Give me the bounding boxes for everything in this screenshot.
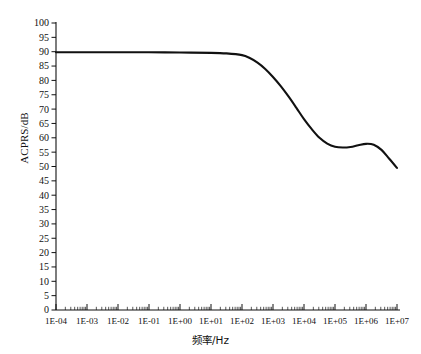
data-series-group bbox=[56, 52, 397, 168]
y-tick-label: 70 bbox=[39, 104, 49, 115]
x-tick-label: 1E+03 bbox=[261, 316, 286, 326]
y-tick-label: 60 bbox=[39, 132, 49, 143]
y-axis-title-wrap: ACPRS/dB bbox=[14, 68, 34, 208]
x-tick-label: 1E+02 bbox=[230, 316, 254, 326]
y-tick-label: 35 bbox=[39, 204, 49, 215]
y-tick-label: 5 bbox=[44, 290, 49, 301]
x-tick-label: 1E+04 bbox=[292, 316, 317, 326]
y-tick-label: 45 bbox=[39, 175, 49, 186]
y-tick-label: 20 bbox=[39, 247, 49, 258]
x-axis-title: 频率/Hz bbox=[0, 332, 421, 347]
y-tick-label: 40 bbox=[39, 190, 49, 201]
y-tick-label: 80 bbox=[39, 75, 49, 86]
x-tick-label: 1E-02 bbox=[107, 316, 129, 326]
x-tick-label: 1E+00 bbox=[168, 316, 193, 326]
x-tick-label: 1E+06 bbox=[354, 316, 379, 326]
x-tick-label: 1E+05 bbox=[323, 316, 348, 326]
y-tick-label: 85 bbox=[39, 60, 49, 71]
y-tick-label: 90 bbox=[39, 46, 49, 57]
y-tick-label: 0 bbox=[44, 304, 49, 315]
y-tick-label: 95 bbox=[39, 32, 49, 43]
y-tick-label: 10 bbox=[39, 276, 49, 287]
y-tick-label: 65 bbox=[39, 118, 49, 129]
chart-plot-area: 0510152025303540455055606570758085909510… bbox=[0, 0, 421, 354]
y-tick-label: 50 bbox=[39, 161, 49, 172]
y-tick-label: 55 bbox=[39, 147, 49, 158]
y-axis-title: ACPRS/dB bbox=[18, 112, 30, 164]
y-tick-label: 30 bbox=[39, 218, 49, 229]
series-line bbox=[56, 52, 397, 168]
x-axis-title-text: 频率/Hz bbox=[192, 334, 229, 346]
x-axis: 1E-041E-031E-021E-011E+001E+011E+021E+03… bbox=[45, 304, 410, 326]
x-tick-label: 1E+07 bbox=[385, 316, 410, 326]
y-tick-label: 25 bbox=[39, 233, 49, 244]
y-tick-label: 15 bbox=[39, 261, 49, 272]
x-tick-label: 1E-04 bbox=[45, 316, 67, 326]
y-tick-label: 100 bbox=[34, 17, 49, 28]
y-tick-label: 75 bbox=[39, 89, 49, 100]
x-tick-label: 1E-01 bbox=[138, 316, 160, 326]
chart-figure: 0510152025303540455055606570758085909510… bbox=[0, 0, 421, 354]
x-tick-label: 1E+01 bbox=[199, 316, 223, 326]
y-axis: 0510152025303540455055606570758085909510… bbox=[34, 17, 56, 315]
x-tick-label: 1E-03 bbox=[76, 316, 98, 326]
